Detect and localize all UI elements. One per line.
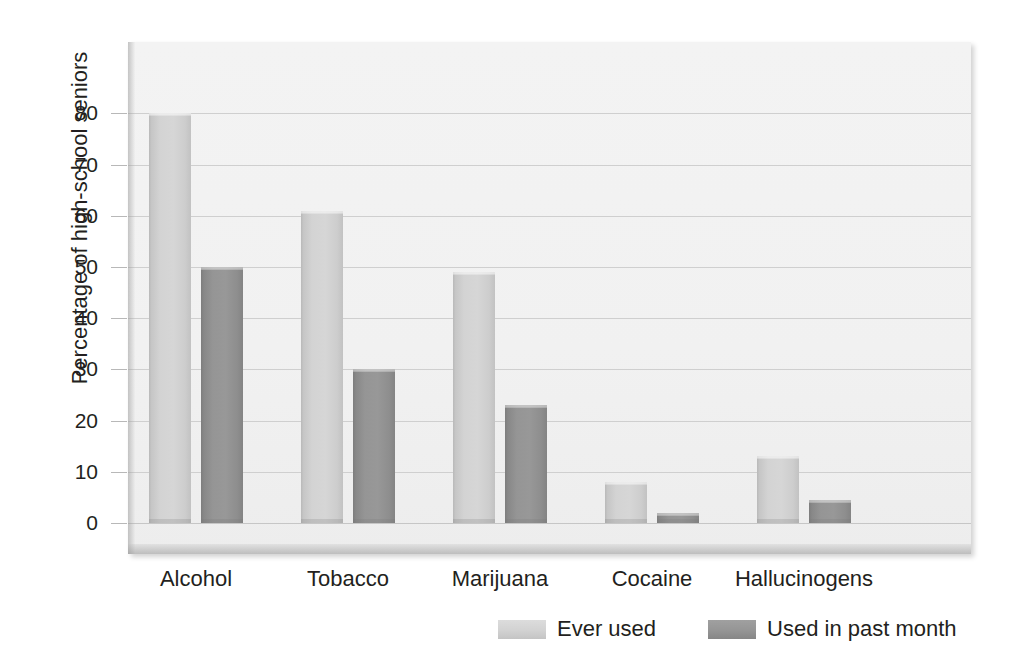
bar-cocaine-used-in-past-month xyxy=(657,513,699,523)
y-tick-label-0: 0 xyxy=(38,511,98,535)
bar-shadow xyxy=(809,519,851,523)
y-tick-label-60: 60 xyxy=(38,204,98,228)
bar-shadow xyxy=(453,519,495,523)
y-axis-tick-labels: 01020304050607080 xyxy=(36,42,98,554)
gridline-60 xyxy=(128,216,971,217)
x-tick-label-marijuana: Marijuana xyxy=(452,566,549,592)
bar-highlight xyxy=(505,405,547,408)
bar-highlight xyxy=(301,211,343,214)
gridline-40 xyxy=(128,318,971,319)
gridline-30 xyxy=(128,369,971,370)
bar-tobacco-ever-used xyxy=(301,211,343,523)
x-tick-label-alcohol: Alcohol xyxy=(160,566,232,592)
y-tick-mark-70 xyxy=(111,165,127,166)
y-tick-label-80: 80 xyxy=(38,101,98,125)
bar-shadow xyxy=(201,519,243,523)
gridline-20 xyxy=(128,421,971,422)
legend-label: Used in past month xyxy=(767,616,957,642)
bar-shadow xyxy=(353,519,395,523)
bar-marijuana-ever-used xyxy=(453,272,495,523)
y-tick-label-70: 70 xyxy=(38,153,98,177)
bar-highlight xyxy=(809,500,851,503)
bar-shadow xyxy=(301,519,343,523)
legend-label: Ever used xyxy=(557,616,656,642)
legend-spacer xyxy=(656,629,708,630)
y-tick-mark-20 xyxy=(111,421,127,422)
bar-cocaine-ever-used xyxy=(605,482,647,523)
y-tick-label-30: 30 xyxy=(38,357,98,381)
bar-shadow xyxy=(757,519,799,523)
bar-alcohol-used-in-past-month xyxy=(201,267,243,523)
y-tick-label-10: 10 xyxy=(38,460,98,484)
legend-entry-used-in-past-month: Used in past month xyxy=(708,616,957,642)
bar-alcohol-ever-used xyxy=(149,113,191,523)
gridline-50 xyxy=(128,267,971,268)
legend-swatch-icon xyxy=(708,620,756,639)
y-tick-label-20: 20 xyxy=(38,409,98,433)
legend-entry-ever-used: Ever used xyxy=(498,616,656,642)
y-tick-mark-0 xyxy=(111,523,127,524)
plot-bottom-bevel xyxy=(128,544,971,554)
bar-shadow xyxy=(149,519,191,523)
bar-hallucinogens-ever-used xyxy=(757,456,799,523)
bar-highlight xyxy=(657,513,699,516)
x-tick-label-hallucinogens: Hallucinogens xyxy=(735,566,873,592)
x-axis-tick-labels: AlcoholTobaccoMarijuanaCocaineHallucinog… xyxy=(128,566,971,598)
y-tick-mark-40 xyxy=(111,318,127,319)
bar-highlight xyxy=(453,272,495,275)
plot-left-bevel xyxy=(128,42,135,554)
chart-legend: Ever usedUsed in past month xyxy=(498,614,957,644)
y-tick-mark-60 xyxy=(111,216,127,217)
bar-hallucinogens-used-in-past-month xyxy=(809,500,851,523)
bar-shadow xyxy=(505,519,547,523)
bar-highlight xyxy=(149,113,191,116)
gridline-10 xyxy=(128,472,971,473)
y-tick-mark-10 xyxy=(111,472,127,473)
y-tick-mark-50 xyxy=(111,267,127,268)
bar-tobacco-used-in-past-month xyxy=(353,369,395,523)
bar-highlight xyxy=(353,369,395,372)
gridline-80 xyxy=(128,113,971,114)
bar-chart: Percentage of high-school seniors 010203… xyxy=(0,0,1016,663)
bar-highlight xyxy=(605,482,647,485)
bar-highlight xyxy=(201,267,243,270)
y-tick-mark-80 xyxy=(111,113,127,114)
x-tick-label-tobacco: Tobacco xyxy=(307,566,389,592)
bar-shadow xyxy=(657,519,699,523)
bar-highlight xyxy=(757,456,799,459)
y-tick-label-50: 50 xyxy=(38,255,98,279)
bar-marijuana-used-in-past-month xyxy=(505,405,547,523)
plot-background xyxy=(128,42,971,554)
plot-area xyxy=(128,42,971,554)
gridline-70 xyxy=(128,165,971,166)
x-tick-label-cocaine: Cocaine xyxy=(612,566,693,592)
y-tick-label-40: 40 xyxy=(38,306,98,330)
bar-shadow xyxy=(605,519,647,523)
gridline-0 xyxy=(128,523,971,524)
legend-swatch-icon xyxy=(498,620,546,639)
y-tick-mark-30 xyxy=(111,369,127,370)
